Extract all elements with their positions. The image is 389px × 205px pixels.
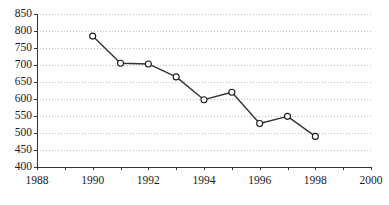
x-axis-tick-label: 1998 (295, 175, 335, 187)
y-axis-tick-label: 550 (15, 110, 32, 122)
x-axis-tick-label: 1994 (184, 175, 224, 187)
y-axis-tick-label: 400 (15, 161, 32, 173)
x-axis-tick-label: 1990 (73, 175, 113, 187)
x-axis-tick-label: 1988 (17, 175, 57, 187)
data-series-line (93, 36, 316, 136)
y-axis-tick-label: 850 (15, 8, 32, 20)
y-axis-tick-label: 600 (15, 93, 32, 105)
x-axis-tick-label: 2000 (351, 175, 389, 187)
y-axis-ticks (34, 15, 37, 168)
y-axis-tick-label: 500 (15, 127, 32, 139)
y-axis-tick-label: 450 (15, 144, 32, 156)
gridlines (37, 15, 371, 151)
y-axis-tick-label: 800 (15, 25, 32, 37)
y-axis-tick-label: 650 (15, 76, 32, 88)
x-axis-tick-label: 1996 (240, 175, 280, 187)
y-axis-tick-label: 700 (15, 59, 32, 71)
axis-lines (38, 14, 372, 168)
y-axis-tick-label: 750 (15, 42, 32, 54)
x-axis-tick-label: 1992 (128, 175, 168, 187)
line-chart: 400450500550600650700750800850 198819901… (0, 0, 389, 205)
data-point-markers (90, 33, 319, 139)
